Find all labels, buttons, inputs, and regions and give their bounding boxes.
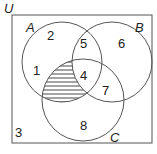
set-label-c: C (110, 130, 120, 145)
set-label-b: B (135, 20, 144, 35)
region-b-c: 7 (102, 83, 109, 98)
universe-label: U (4, 1, 14, 16)
region-a-b: 5 (80, 36, 87, 51)
region-outside: 3 (15, 125, 22, 140)
region-c-only: 8 (80, 118, 87, 133)
set-label-a: A (25, 20, 35, 35)
region-a-left: 1 (33, 63, 40, 78)
venn-diagram: U A B C 2 5 6 1 4 7 8 3 (0, 0, 157, 154)
region-abc: 4 (80, 68, 87, 83)
region-b-only: 6 (118, 36, 125, 51)
region-a-only: 2 (47, 28, 54, 43)
